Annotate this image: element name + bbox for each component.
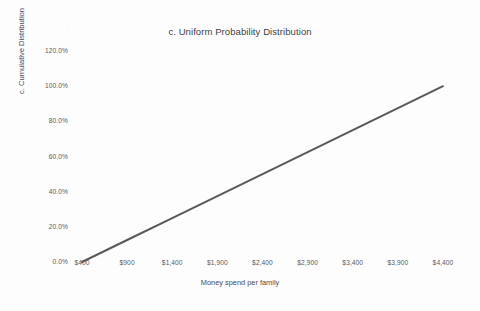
chart-screenshot: .... .... c. Uniform Probability Distrib… — [0, 0, 480, 311]
plot-area: c. Cumulative Distribution 120.0%100.0%8… — [0, 0, 480, 311]
cumulative-distribution-line — [82, 86, 443, 262]
series-layer — [0, 0, 480, 311]
x-axis-title: Money spend per family — [0, 278, 480, 287]
